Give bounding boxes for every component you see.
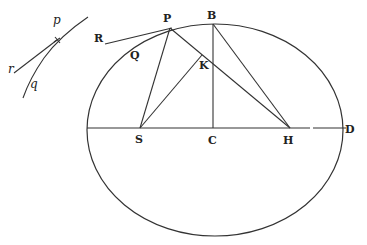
- label-H: H: [283, 134, 293, 147]
- inset-figure: [14, 17, 88, 98]
- line-SK: [140, 55, 202, 128]
- tangent-RP: [105, 28, 172, 44]
- label-P: P: [163, 12, 171, 25]
- label-K: K: [199, 59, 209, 72]
- label-B: B: [207, 9, 216, 22]
- line-PS: [140, 28, 170, 128]
- label-D: D: [345, 123, 355, 136]
- label-S: S: [135, 133, 143, 146]
- construction-lines: [87, 24, 346, 128]
- label-p: p: [53, 13, 61, 27]
- label-r: r: [8, 62, 15, 76]
- ellipse-diagram: p r q R P B Q K S C H D: [0, 0, 367, 245]
- label-Q: Q: [130, 49, 140, 62]
- label-q: q: [30, 77, 38, 91]
- ellipse: [87, 24, 343, 236]
- line-PH: [170, 28, 290, 128]
- inset-tangent-r: [14, 40, 57, 73]
- label-R: R: [94, 32, 104, 45]
- label-C: C: [208, 134, 217, 147]
- line-BH: [213, 24, 290, 128]
